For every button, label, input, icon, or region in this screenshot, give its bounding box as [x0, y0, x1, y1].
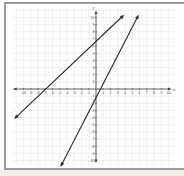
page-bottom-margin: [0, 170, 184, 176]
worksheet-page: { "figure": { "panel_border_color": "#9b…: [0, 0, 184, 176]
graph-panel: [4, 2, 184, 170]
